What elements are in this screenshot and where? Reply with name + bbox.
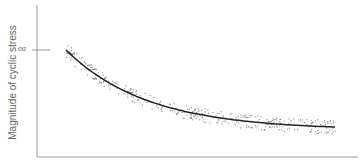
y-axis-label-text: Magnitude of cyclic stress — [7, 25, 18, 140]
y-axis-label: Magnitude of cyclic stress — [2, 10, 22, 155]
y-tick-label: σa — [18, 44, 26, 53]
scatter-points — [66, 45, 336, 134]
chart-canvas — [0, 0, 363, 168]
